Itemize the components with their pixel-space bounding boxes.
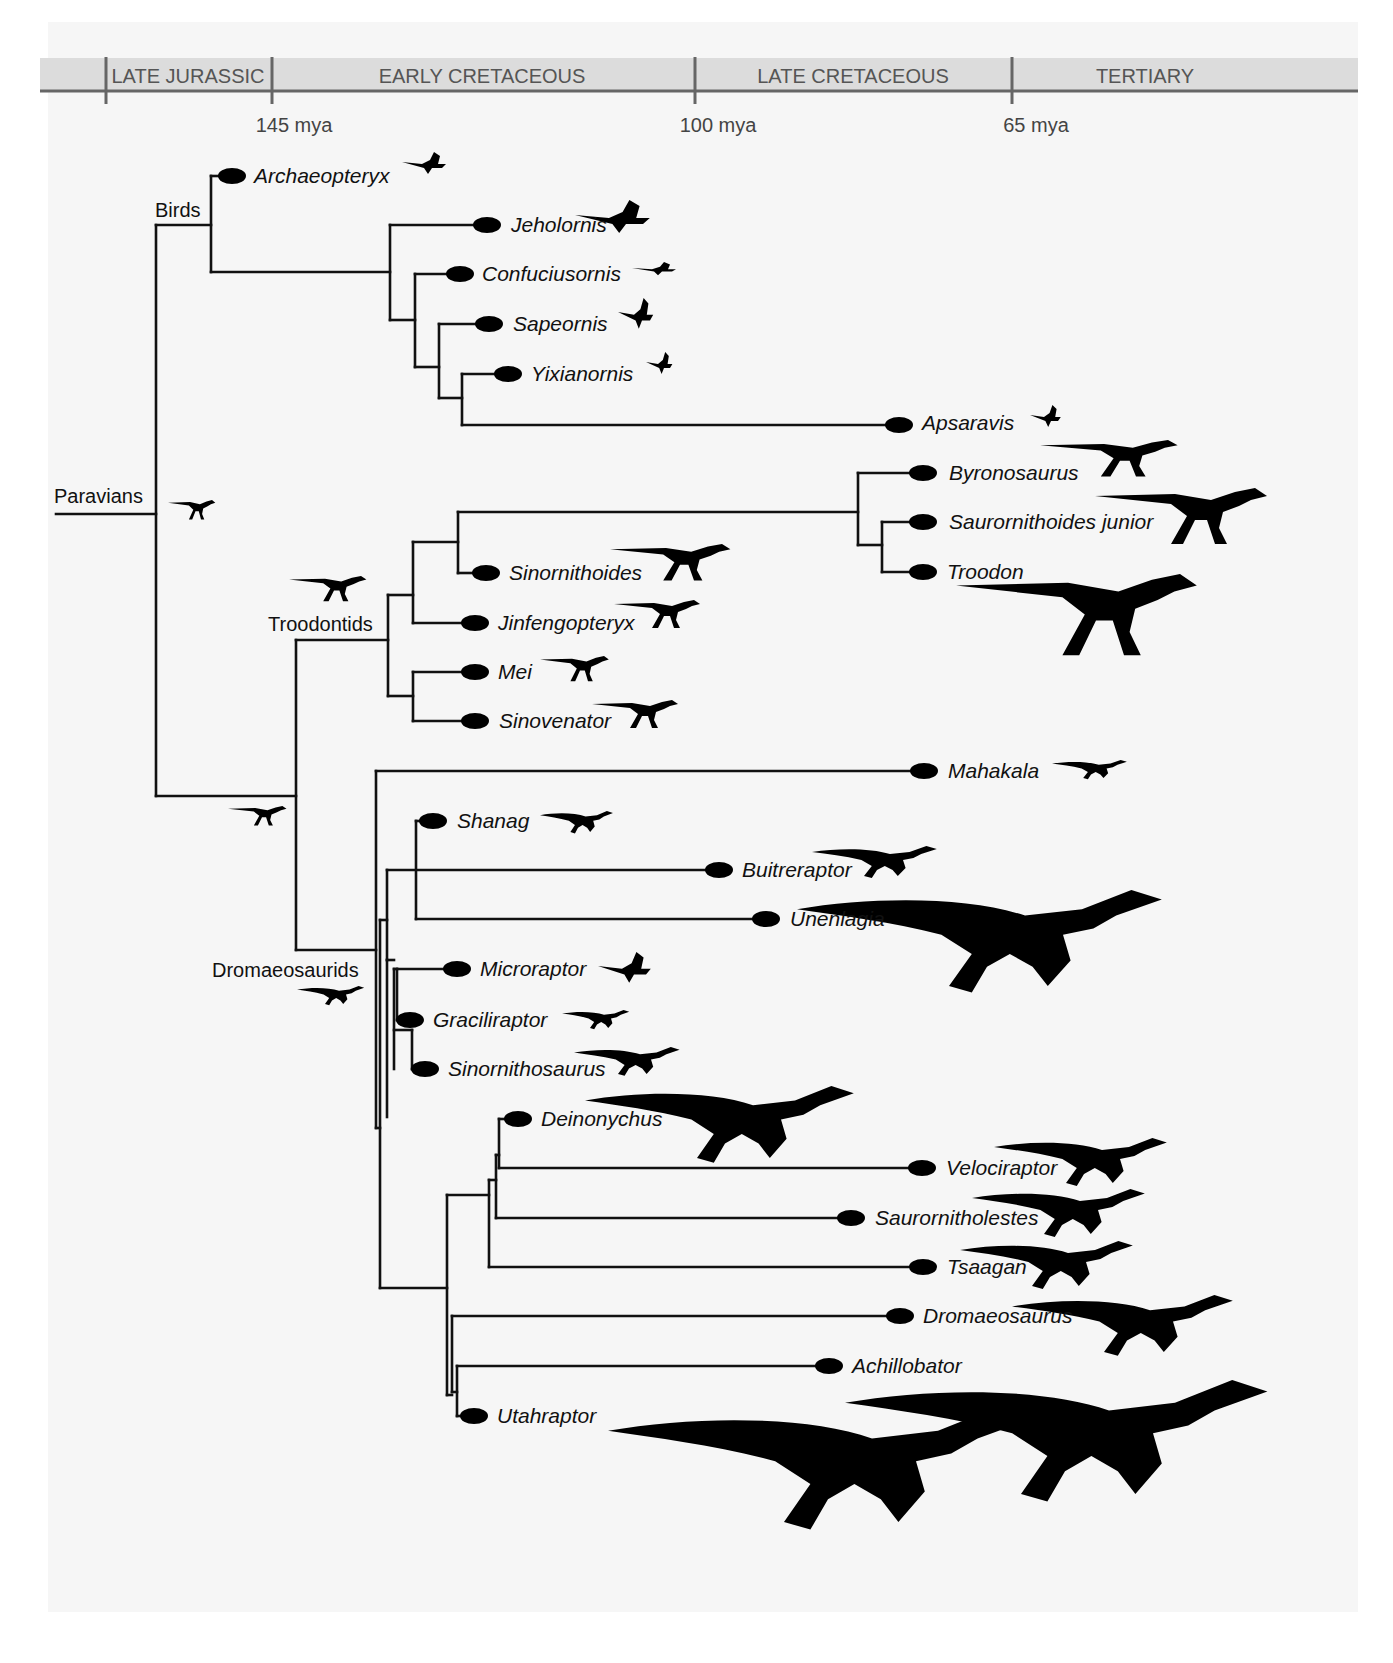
dromaeosaurid-clade-icon — [297, 986, 364, 1005]
taxon-label: Troodon — [947, 560, 1024, 584]
taxon-label: Jinfengopteryx — [498, 611, 635, 635]
taxon-label: Saurornithoides junior — [949, 510, 1153, 534]
paravian-icon — [168, 500, 215, 520]
tree-branches — [56, 176, 924, 1416]
boundary-100-mya: 100 mya — [680, 114, 757, 137]
taxon-label: Shanag — [457, 809, 529, 833]
era-label-late-cretaceous: LATE CRETACEOUS — [757, 65, 949, 88]
boundary-145-mya: 145 mya — [256, 114, 333, 137]
bird-icon — [1030, 405, 1061, 427]
bird-icon — [618, 298, 653, 329]
boundary-65-mya: 65 mya — [1003, 114, 1069, 137]
era-label-late-jurassic: LATE JURASSIC — [112, 65, 265, 88]
taxon-label: Unenlagia — [790, 907, 885, 931]
bird-icon — [632, 262, 676, 275]
tree-svg — [0, 0, 1393, 1663]
winged-raptor-icon — [598, 952, 651, 983]
taxon-label: Jeholornis — [511, 213, 607, 237]
taxon-label: Buitreraptor — [742, 858, 852, 882]
raptor-icon — [540, 811, 613, 833]
taxon-label: Byronosaurus — [949, 461, 1079, 485]
taxon-label: Sinornithoides — [509, 561, 642, 585]
raptor-icon — [608, 1408, 1030, 1530]
taxon-label: Confuciusornis — [482, 262, 621, 286]
bird-icon — [402, 152, 446, 174]
taxon-label: Sinornithosaurus — [448, 1057, 606, 1081]
taxon-label: Yixianornis — [531, 362, 633, 386]
taxon-label: Tsaagan — [947, 1255, 1027, 1279]
clade-label-paravians: Paravians — [54, 484, 143, 508]
theropod-icon — [956, 574, 1197, 655]
troodontid-clade-icon — [289, 576, 366, 601]
raptor-icon — [797, 890, 1162, 992]
taxon-label: Deinonychus — [541, 1107, 662, 1131]
terminal-nodes — [218, 168, 938, 1424]
clade-label-dromaeosaurids: Dromaeosaurids — [212, 958, 359, 982]
era-label-tertiary: TERTIARY — [1096, 65, 1194, 88]
taxon-label: Velociraptor — [946, 1156, 1057, 1180]
taxon-label: Mei — [498, 660, 532, 684]
era-label-early-cretaceous: EARLY CRETACEOUS — [379, 65, 586, 88]
phylogeny-figure: LATE JURASSIC EARLY CRETACEOUS LATE CRET… — [0, 0, 1393, 1663]
taxon-label: Graciliraptor — [433, 1008, 547, 1032]
taxon-label: Achillobator — [852, 1354, 962, 1378]
taxon-label: Utahraptor — [497, 1404, 596, 1428]
paravian-lower-icon — [228, 806, 286, 826]
clade-label-troodontids: Troodontids — [268, 612, 373, 636]
bird-icon — [646, 352, 672, 374]
theropod-icon — [540, 656, 609, 681]
taxon-label: Apsaravis — [922, 411, 1014, 435]
taxon-label: Sapeornis — [513, 312, 608, 336]
taxon-label: Sinovenator — [499, 709, 611, 733]
clade-label-birds: Birds — [155, 198, 201, 222]
taxon-label: Dromaeosaurus — [923, 1304, 1072, 1328]
taxon-label: Microraptor — [480, 957, 586, 981]
taxon-label: Archaeopteryx — [254, 164, 389, 188]
taxon-label: Saurornitholestes — [875, 1206, 1038, 1230]
raptor-icon — [562, 1010, 629, 1029]
taxon-label: Mahakala — [948, 759, 1039, 783]
raptor-icon — [1052, 760, 1127, 779]
